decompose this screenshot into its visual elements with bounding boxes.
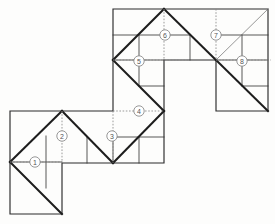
marker-label-2: 2 bbox=[60, 133, 64, 140]
marker-label-6: 6 bbox=[163, 32, 167, 39]
marker-label-4: 4 bbox=[137, 108, 141, 115]
marker-3[interactable]: 3 bbox=[107, 131, 117, 141]
marker-label-8: 8 bbox=[240, 58, 244, 65]
marker-4[interactable]: 4 bbox=[134, 106, 144, 116]
marker-5[interactable]: 5 bbox=[134, 56, 144, 66]
column-diagonal-upper bbox=[113, 9, 164, 60]
marker-2[interactable]: 2 bbox=[57, 131, 67, 141]
marker-7[interactable]: 7 bbox=[211, 30, 221, 40]
marker-label-3: 3 bbox=[110, 133, 114, 140]
lower-left-upper-diagonal bbox=[10, 111, 62, 162]
marker-label-1: 1 bbox=[33, 159, 37, 166]
marker-label-5: 5 bbox=[137, 58, 141, 65]
diagram-canvas: 12345678 bbox=[0, 0, 275, 224]
marker-1[interactable]: 1 bbox=[30, 157, 40, 167]
marker-6[interactable]: 6 bbox=[160, 30, 170, 40]
marker-8[interactable]: 8 bbox=[237, 56, 247, 66]
diagram-svg: 12345678 bbox=[0, 0, 275, 224]
column-diagonal-lower bbox=[113, 60, 164, 111]
lower-left-lower-diagonal bbox=[10, 162, 62, 214]
lower-mid-left-diagonal bbox=[62, 111, 113, 163]
marker-label-7: 7 bbox=[214, 32, 218, 39]
